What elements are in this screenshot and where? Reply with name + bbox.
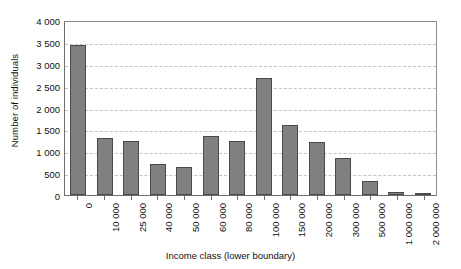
bar-slot (330, 22, 357, 195)
y-axis-tick-label: 4 000 (24, 16, 60, 27)
x-axis-label-slot: 50 000 (171, 201, 198, 247)
y-axis-tick-labels: 05001 0001 5002 0002 5003 0003 5004 000 (24, 16, 60, 197)
x-axis-tick-labels: 010 00025 00040 00050 00060 00080 000100… (64, 201, 437, 247)
plot-area (64, 21, 437, 196)
bar-slot (383, 22, 410, 195)
y-axis-tick-label: 500 (24, 169, 60, 180)
x-axis-label-slot: 300 000 (330, 201, 357, 247)
bar-chart-figure: Number of individuals 05001 0001 5002 00… (0, 0, 461, 269)
x-axis-label-slot: 40 000 (144, 201, 171, 247)
bar-slot (304, 22, 331, 195)
bar[interactable] (123, 141, 139, 195)
bar-slot (198, 22, 225, 195)
bar[interactable] (176, 167, 192, 195)
bar[interactable] (309, 142, 325, 195)
bar-slot (251, 22, 278, 195)
x-axis-label-slot: 200 000 (304, 201, 331, 247)
y-axis-tick-label: 0 (24, 191, 60, 202)
bar[interactable] (335, 158, 351, 195)
bar[interactable] (388, 192, 404, 196)
y-axis-tick-label: 2 500 (24, 81, 60, 92)
bar-slot (171, 22, 198, 195)
x-axis-label-slot: 2 000 000 (410, 201, 437, 247)
x-axis-label-slot: 100 000 (250, 201, 277, 247)
y-axis-tick-label: 1 500 (24, 125, 60, 136)
y-axis-title-text: Number of individuals (10, 53, 21, 146)
bar-slot (65, 22, 92, 195)
x-axis-label-slot: 500 000 (357, 201, 384, 247)
bar[interactable] (282, 125, 298, 195)
bar[interactable] (70, 45, 86, 195)
bar[interactable] (362, 181, 378, 195)
x-axis-label-slot: 25 000 (117, 201, 144, 247)
bar-slot (357, 22, 384, 195)
x-axis-title: Income class (lower boundary) (0, 250, 461, 261)
y-axis-tick-label: 1 000 (24, 147, 60, 158)
bar[interactable] (150, 164, 166, 195)
bar[interactable] (97, 138, 113, 195)
bar[interactable] (256, 78, 272, 195)
y-axis-title: Number of individuals (6, 0, 24, 200)
bar-slot (277, 22, 304, 195)
bar[interactable] (203, 136, 219, 195)
x-axis-label-slot: 80 000 (224, 201, 251, 247)
x-axis-label-slot: 150 000 (277, 201, 304, 247)
bar-slot (118, 22, 145, 195)
bar-slot (224, 22, 251, 195)
x-axis-label-slot: 60 000 (197, 201, 224, 247)
x-axis-label-slot: 0 (64, 201, 91, 247)
x-axis-tick-label: 2 000 000 (429, 203, 440, 245)
bar-slot (145, 22, 172, 195)
y-axis-tick-label: 3 000 (24, 59, 60, 70)
bar[interactable] (229, 141, 245, 195)
bar-slot (92, 22, 119, 195)
bar[interactable] (415, 193, 431, 195)
x-axis-label-slot: 1 000 000 (384, 201, 411, 247)
bar-series (65, 22, 436, 195)
bar-slot (410, 22, 437, 195)
y-axis-tick-label: 2 000 (24, 103, 60, 114)
x-axis-label-slot: 10 000 (91, 201, 118, 247)
y-axis-tick-label: 3 500 (24, 37, 60, 48)
